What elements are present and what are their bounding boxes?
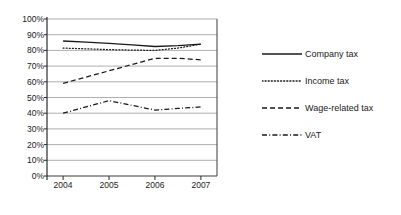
legend-line-sample-icon <box>262 76 302 86</box>
series-line-wage-related-tax <box>63 58 201 83</box>
chart-legend: Company taxIncome taxWage-related taxVAT <box>262 40 401 148</box>
y-axis-label: 30% <box>6 125 44 134</box>
legend-item[interactable]: VAT <box>262 121 401 148</box>
legend-item-label: Wage-related tax <box>305 103 373 113</box>
x-axis-label: 2005 <box>89 181 129 190</box>
plot-area-wrapper: 100%90%80%70%60%50%40%30%20%10%0% 200420… <box>0 0 245 200</box>
line-chart: 100%90%80%70%60%50%40%30%20%10%0% 200420… <box>0 0 401 215</box>
y-axis-label: 50% <box>6 94 44 103</box>
series-line-company-tax <box>63 41 201 46</box>
legend-item-label: Income tax <box>305 76 349 86</box>
y-axis-label: 90% <box>6 31 44 40</box>
y-axis-tick-labels: 100%90%80%70%60%50%40%30%20%10%0% <box>6 0 44 200</box>
y-axis-label: 40% <box>6 109 44 118</box>
legend-line-sample-icon <box>262 130 302 140</box>
legend-item[interactable]: Income tax <box>262 67 401 94</box>
x-axis-label: 2006 <box>135 181 175 190</box>
legend-item[interactable]: Wage-related tax <box>262 94 401 121</box>
y-axis-label: 10% <box>6 156 44 165</box>
legend-item[interactable]: Company tax <box>262 40 401 67</box>
legend-line-sample-icon <box>262 103 302 113</box>
y-axis-label: 70% <box>6 62 44 71</box>
y-axis-label: 80% <box>6 46 44 55</box>
y-axis-label: 20% <box>6 141 44 150</box>
legend-item-label: VAT <box>305 130 321 140</box>
y-axis-label: 60% <box>6 78 44 87</box>
x-axis-label: 2007 <box>181 181 221 190</box>
y-axis-label: 0% <box>6 172 44 181</box>
x-axis-label: 2004 <box>43 181 83 190</box>
y-axis-label: 100% <box>6 15 44 24</box>
series-line-vat <box>63 101 201 114</box>
legend-line-sample-icon <box>262 49 302 59</box>
legend-item-label: Company tax <box>305 49 358 59</box>
